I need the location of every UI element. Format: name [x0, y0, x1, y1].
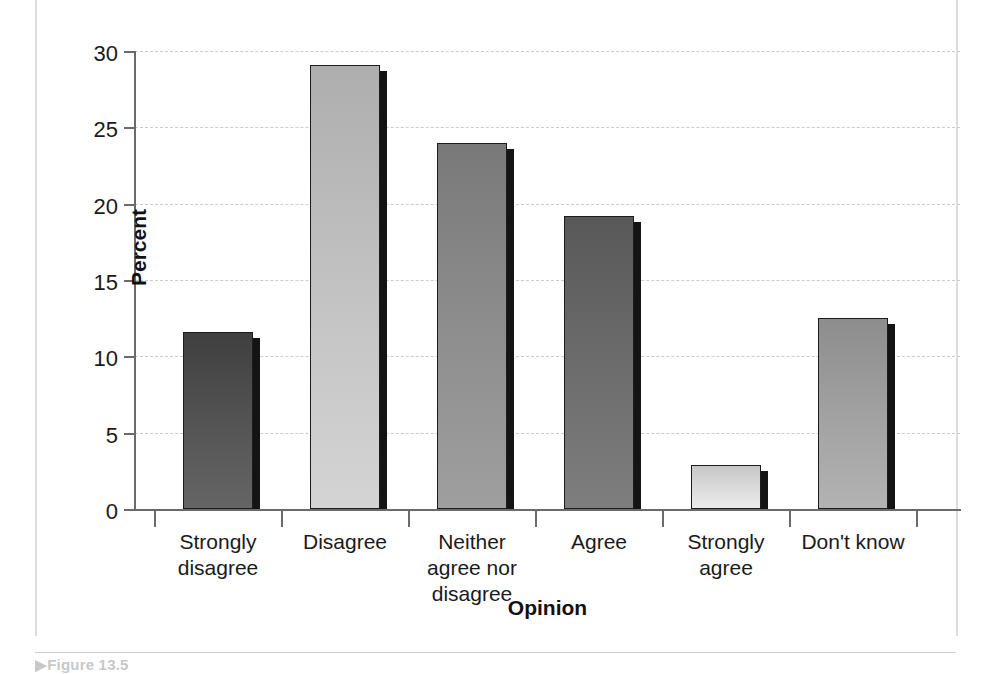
- bar[interactable]: [183, 332, 253, 509]
- x-axis-category-label: Stronglydisagree: [155, 529, 282, 581]
- bar-shadow: [253, 338, 260, 510]
- y-axis-title: Percent: [127, 209, 151, 286]
- gridline: [135, 204, 960, 205]
- x-axis-tick: [789, 511, 791, 527]
- category-label-line: Neither: [409, 529, 536, 555]
- category-label-line: agree nor: [409, 555, 536, 581]
- y-axis-tick-label: 10: [94, 346, 118, 372]
- y-axis-tick: 5: [124, 433, 135, 435]
- y-axis-tick-label: 15: [94, 270, 118, 296]
- bar-shadow: [380, 71, 387, 510]
- bar-chart-plot-area: 051015202530 StronglydisagreeDisagreeNei…: [135, 51, 960, 509]
- x-axis-tick: [916, 511, 918, 527]
- y-axis-tick: 10: [124, 356, 135, 358]
- page-margin-rule-left: [35, 0, 37, 636]
- y-axis-tick-label: 5: [106, 423, 118, 449]
- y-axis-tick: 0: [124, 509, 135, 511]
- x-axis-tick: [408, 511, 410, 527]
- bar[interactable]: [310, 65, 380, 509]
- gridline: [135, 51, 960, 52]
- gridline: [135, 127, 960, 128]
- bar-shadow: [888, 324, 895, 510]
- gridline: [135, 280, 960, 281]
- x-axis-tick: [154, 511, 156, 527]
- y-axis-tick-label: 0: [106, 499, 118, 525]
- bar-shadow: [507, 149, 514, 510]
- x-axis-title: Opinion: [135, 596, 960, 620]
- y-axis-tick: 25: [124, 127, 135, 129]
- category-label-line: Strongly: [155, 529, 282, 555]
- y-axis-tick-label: 25: [94, 117, 118, 143]
- x-axis-category-label: Disagree: [282, 529, 409, 555]
- x-axis-tick: [662, 511, 664, 527]
- bar[interactable]: [564, 216, 634, 509]
- y-axis-tick: 30: [124, 51, 135, 53]
- category-label-line: agree: [663, 555, 790, 581]
- x-axis-line: [134, 509, 961, 511]
- category-label-line: Disagree: [282, 529, 409, 555]
- category-label-line: Strongly: [663, 529, 790, 555]
- bar[interactable]: [437, 143, 507, 509]
- bar-shadow: [761, 471, 768, 510]
- bar[interactable]: [691, 465, 761, 509]
- bar[interactable]: [818, 318, 888, 509]
- y-axis-tick-label: 30: [94, 41, 118, 67]
- x-axis-tick: [535, 511, 537, 527]
- caption-divider: [35, 652, 956, 653]
- category-label-line: Agree: [536, 529, 663, 555]
- x-axis-tick: [281, 511, 283, 527]
- figure-caption: ▶Figure 13.5: [35, 656, 535, 674]
- x-axis-category-label: Stronglyagree: [663, 529, 790, 581]
- bar-shadow: [634, 222, 641, 510]
- x-axis-category-label: Agree: [536, 529, 663, 555]
- category-label-line: Don't know: [790, 529, 917, 555]
- category-label-line: disagree: [155, 555, 282, 581]
- y-axis-tick-label: 20: [94, 194, 118, 220]
- x-axis-category-label: Don't know: [790, 529, 917, 555]
- y-axis-tick: 20: [124, 204, 135, 206]
